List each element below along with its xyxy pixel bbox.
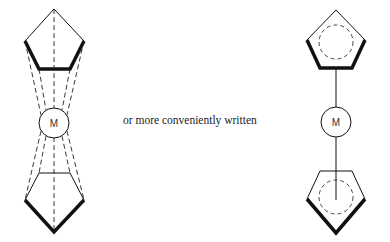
left-sandwich-structure: M <box>25 9 84 232</box>
right-bottom-ring <box>307 171 365 233</box>
left-metal-label: M <box>50 118 58 129</box>
left-top-ring <box>25 9 84 69</box>
right-metal-atom: M <box>321 107 351 137</box>
right-top-aromatic-circle <box>319 25 353 59</box>
left-bottom-ring <box>25 173 84 232</box>
right-metal-label: M <box>332 117 340 128</box>
left-metal-atom: M <box>39 108 69 138</box>
caption-text: or more conveniently written <box>123 114 257 126</box>
right-sandwich-structure: M <box>307 10 365 233</box>
right-top-ring <box>307 10 365 68</box>
